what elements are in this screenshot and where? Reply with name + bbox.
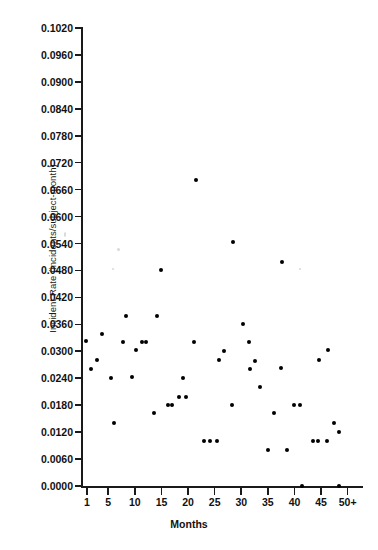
data-point xyxy=(285,448,289,452)
data-point xyxy=(159,268,163,272)
data-point xyxy=(248,367,252,371)
y-tick-label: 0.0420 xyxy=(15,291,73,303)
y-tick-label: 0.0360 xyxy=(15,318,73,330)
data-point xyxy=(272,411,276,415)
data-point xyxy=(144,340,148,344)
x-tick-label: 1 xyxy=(84,496,90,508)
x-tick-mark xyxy=(294,488,296,495)
x-axis-title: Months xyxy=(0,518,378,530)
scatter-plot-figure: Incident Rate (incidents/subject-month) … xyxy=(0,0,378,550)
x-tick-label: 35 xyxy=(262,496,274,508)
data-point xyxy=(292,403,296,407)
y-tick-label: 0.0840 xyxy=(15,103,73,115)
data-point xyxy=(326,348,330,352)
y-tick-label: 0.0240 xyxy=(15,372,73,384)
data-point xyxy=(280,260,284,264)
y-tick-label: 0.0180 xyxy=(15,399,73,411)
x-tick-label: 10 xyxy=(129,496,141,508)
data-point xyxy=(109,376,113,380)
x-tick-mark xyxy=(267,488,269,495)
x-tick-label: 45 xyxy=(315,496,327,508)
y-tick-label: 0.0480 xyxy=(15,264,73,276)
data-point xyxy=(208,439,212,443)
x-tick-mark xyxy=(214,488,216,495)
data-point xyxy=(279,366,283,370)
data-point xyxy=(177,395,181,399)
data-point xyxy=(155,314,159,318)
data-point xyxy=(84,339,88,343)
y-tick-label: 0.0720 xyxy=(15,157,73,169)
y-tick-label: 0.0960 xyxy=(15,49,73,61)
data-point xyxy=(298,403,302,407)
data-point xyxy=(100,332,104,336)
data-point xyxy=(181,376,185,380)
scan-artifact xyxy=(112,268,114,270)
data-point xyxy=(311,439,315,443)
data-point xyxy=(192,340,196,344)
y-tick-label: 0.0000 xyxy=(15,480,73,492)
data-point xyxy=(202,439,206,443)
x-tick-label: 40 xyxy=(289,496,301,508)
data-point xyxy=(332,421,336,425)
data-point xyxy=(231,240,235,244)
data-point xyxy=(230,403,234,407)
y-tick-label: 0.0900 xyxy=(15,76,73,88)
data-point xyxy=(253,359,257,363)
x-tick-mark xyxy=(134,488,136,495)
plot-area xyxy=(81,28,362,486)
data-point xyxy=(89,367,93,371)
data-point xyxy=(124,314,128,318)
scan-artifact xyxy=(299,268,301,270)
data-point xyxy=(337,430,341,434)
data-point xyxy=(170,403,174,407)
y-tick-label: 0.0780 xyxy=(15,130,73,142)
data-point xyxy=(194,178,198,182)
data-point xyxy=(317,358,321,362)
data-point xyxy=(130,375,134,379)
x-tick-mark xyxy=(107,488,109,495)
y-tick-label: 0.1020 xyxy=(15,22,73,34)
data-point xyxy=(217,358,221,362)
data-point xyxy=(152,411,156,415)
data-point xyxy=(215,439,219,443)
data-point xyxy=(247,340,251,344)
scan-artifact xyxy=(64,232,66,237)
data-point xyxy=(121,340,125,344)
x-tick-mark xyxy=(187,488,189,495)
y-tick-label: 0.0660 xyxy=(15,184,73,196)
data-point xyxy=(316,439,320,443)
x-tick-mark xyxy=(240,488,242,495)
y-tick-label: 0.0060 xyxy=(15,453,73,465)
scan-artifact xyxy=(117,248,120,251)
x-tick-mark xyxy=(320,488,322,495)
x-tick-label: 5 xyxy=(105,496,111,508)
x-tick-label: 15 xyxy=(156,496,168,508)
x-tick-mark xyxy=(86,488,88,495)
x-tick-mark xyxy=(161,488,163,495)
y-tick-label: 0.0600 xyxy=(15,211,73,223)
data-point xyxy=(134,348,138,352)
data-point xyxy=(95,358,99,362)
data-point xyxy=(184,395,188,399)
y-tick-label: 0.0300 xyxy=(15,345,73,357)
x-tick-label: 50+ xyxy=(339,496,357,508)
data-point xyxy=(222,349,226,353)
x-tick-label: 25 xyxy=(209,496,221,508)
data-point xyxy=(258,385,262,389)
data-point xyxy=(112,421,116,425)
data-point xyxy=(266,448,270,452)
y-tick-label: 0.0120 xyxy=(15,426,73,438)
x-tick-label: 30 xyxy=(235,496,247,508)
data-point xyxy=(325,439,329,443)
x-tick-label: 20 xyxy=(182,496,194,508)
y-tick-label: 0.0540 xyxy=(15,238,73,250)
data-point xyxy=(241,322,245,326)
x-tick-mark xyxy=(347,488,349,495)
